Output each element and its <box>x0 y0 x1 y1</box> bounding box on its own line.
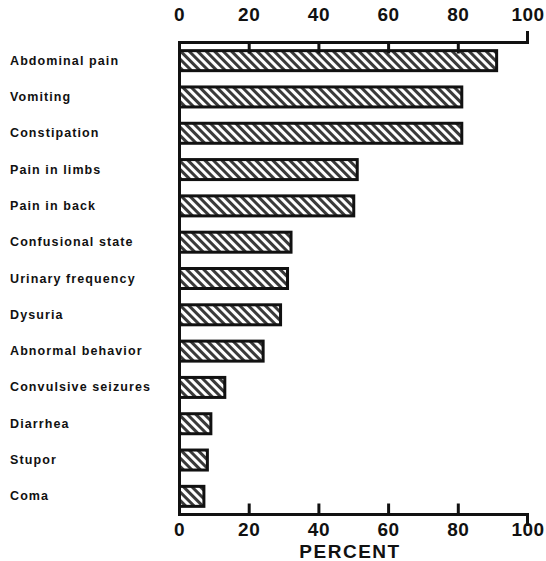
bar <box>180 269 288 289</box>
category-label: Diarrhea <box>10 417 70 431</box>
category-label: Urinary frequency <box>10 272 136 286</box>
bar <box>180 377 225 397</box>
bars-group <box>180 51 497 507</box>
category-label: Abdominal pain <box>10 54 119 68</box>
x-tick-label: 0 <box>174 519 185 541</box>
x-tick-label: 100 <box>511 519 544 541</box>
x-tick-label: 80 <box>447 519 469 541</box>
x-tick-label: 0 <box>174 4 185 26</box>
category-label: Pain in back <box>10 199 96 213</box>
x-tick-label: 60 <box>378 519 400 541</box>
category-label: Constipation <box>10 126 100 140</box>
category-label: Abnormal behavior <box>10 344 143 358</box>
bar <box>180 414 211 434</box>
x-tick-label: 40 <box>308 519 330 541</box>
x-tick-label: 100 <box>511 4 544 26</box>
x-tick-label: 60 <box>378 4 400 26</box>
category-label: Pain in limbs <box>10 163 101 177</box>
bar <box>180 123 462 143</box>
bar <box>180 160 358 180</box>
category-label: Dysuria <box>10 308 64 322</box>
bar <box>180 450 208 470</box>
category-label: Confusional state <box>10 235 134 249</box>
bar <box>180 341 264 361</box>
category-label: Coma <box>10 489 49 503</box>
category-label: Convulsive seizures <box>10 380 151 394</box>
bar <box>180 305 281 325</box>
category-label: Vomiting <box>10 90 71 104</box>
bar <box>180 87 462 107</box>
bar <box>180 486 204 506</box>
bar <box>180 51 497 71</box>
x-tick-label: 40 <box>308 4 330 26</box>
bar <box>180 232 292 252</box>
category-label: Stupor <box>10 453 57 467</box>
bar-chart: 020406080100 020406080100 Abdominal pain… <box>0 0 546 561</box>
x-tick-label: 20 <box>238 519 260 541</box>
x-tick-label: 80 <box>447 4 469 26</box>
bar <box>180 196 354 216</box>
x-tick-label: 20 <box>238 4 260 26</box>
x-axis-title: PERCENT <box>299 541 400 561</box>
